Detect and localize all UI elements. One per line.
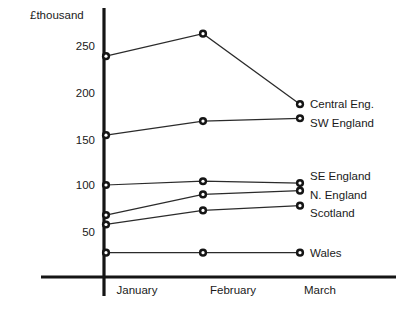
y-axis-tick-labels: £thousand 250 200 150 100 50 — [30, 9, 95, 238]
x-tick-label-february: February — [210, 284, 256, 296]
data-point-marker-center — [104, 251, 107, 254]
series-label-n-england: N. England — [310, 189, 367, 201]
y-tick-label-200: 200 — [76, 87, 95, 99]
series-sw-england — [102, 114, 304, 139]
data-point-marker-center — [104, 55, 107, 58]
series-label-sw-england: SW England — [310, 117, 374, 129]
series-wales — [102, 249, 304, 257]
series-label-scotland: Scotland — [310, 207, 355, 219]
line-chart: £thousand 250 200 150 100 50 January Feb… — [0, 0, 411, 312]
y-axis-unit-label: £thousand — [30, 9, 84, 21]
data-point-marker-center — [104, 134, 107, 137]
data-point-marker-center — [298, 103, 301, 106]
data-point-marker-center — [298, 182, 301, 185]
data-point-marker-center — [201, 251, 204, 254]
data-point-marker-center — [104, 213, 107, 216]
data-point-marker-center — [298, 251, 301, 254]
data-point-marker-center — [104, 183, 107, 186]
data-point-marker-center — [298, 189, 301, 192]
data-point-marker-center — [201, 180, 204, 183]
y-tick-label-50: 50 — [82, 226, 95, 238]
series-label-central-eng: Central Eng. — [310, 98, 374, 110]
data-point-marker-center — [298, 204, 301, 207]
data-point-marker-center — [201, 32, 204, 35]
data-point-marker-center — [201, 209, 204, 212]
chart-canvas: £thousand 250 200 150 100 50 January Feb… — [0, 0, 411, 312]
data-point-marker-center — [201, 119, 204, 122]
data-point-marker-center — [201, 193, 204, 196]
series-line — [106, 34, 300, 105]
y-tick-label-150: 150 — [76, 134, 95, 146]
series-label-se-england: SE England — [310, 170, 371, 182]
series-labels: Central Eng. SW England SE England N. En… — [310, 98, 374, 259]
series-label-wales: Wales — [310, 247, 342, 259]
data-point-marker-center — [104, 223, 107, 226]
data-point-marker-center — [298, 117, 301, 120]
y-tick-label-100: 100 — [76, 179, 95, 191]
series-layer — [102, 30, 304, 257]
x-tick-label-january: January — [117, 284, 158, 296]
series-scotland — [102, 202, 304, 229]
x-axis-tick-labels: January February March — [117, 284, 336, 296]
series-central-eng — [102, 30, 304, 109]
x-tick-label-march: March — [304, 284, 336, 296]
y-tick-label-250: 250 — [76, 40, 95, 52]
series-se-england — [102, 177, 304, 189]
